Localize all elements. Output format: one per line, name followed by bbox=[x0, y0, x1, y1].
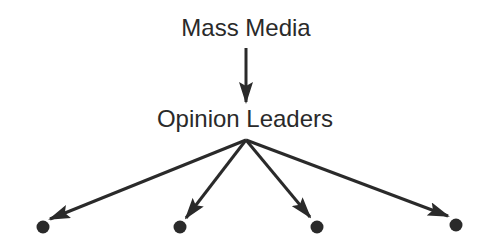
leaf-node-4 bbox=[450, 219, 463, 232]
leaf-node-1 bbox=[37, 221, 50, 234]
leaf-node-3 bbox=[311, 221, 324, 234]
diagram-arrows bbox=[0, 0, 492, 245]
leaf-node-2 bbox=[174, 221, 187, 234]
